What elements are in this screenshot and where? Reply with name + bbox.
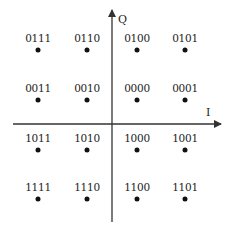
constellation-dot [183,48,188,53]
constellation-dot [36,48,41,53]
point-label: 0010 [74,83,100,94]
constellation-dot [135,98,140,103]
constellation-diagram: Q I 011101100100010100110010000000011011… [0,0,234,234]
i-axis-label: I [206,107,210,118]
constellation-dot [85,98,90,103]
point-label: 1101 [172,182,198,193]
point-label: 0101 [172,33,198,44]
constellation-dot [36,197,41,202]
constellation-dot [183,98,188,103]
point-label: 1110 [74,182,100,193]
constellation-dot [85,48,90,53]
point-label: 0011 [25,83,51,94]
constellation-dot [135,197,140,202]
constellation-dot [85,197,90,202]
point-label: 1001 [172,133,198,144]
point-label: 0000 [124,83,150,94]
constellation-dot [85,148,90,153]
constellation-dot [135,148,140,153]
constellation-dot [36,98,41,103]
point-label: 1000 [124,133,150,144]
constellation-dot [183,148,188,153]
constellation-dot [183,197,188,202]
q-axis-label: Q [118,14,127,25]
point-label: 1011 [25,133,51,144]
constellation-dot [36,148,41,153]
point-label: 1111 [25,182,51,193]
constellation-dot [135,48,140,53]
point-label: 0100 [124,33,150,44]
point-label: 0001 [172,83,198,94]
point-label: 1010 [74,133,100,144]
point-label: 0110 [74,33,100,44]
point-label: 0111 [25,33,51,44]
point-label: 1100 [124,182,150,193]
